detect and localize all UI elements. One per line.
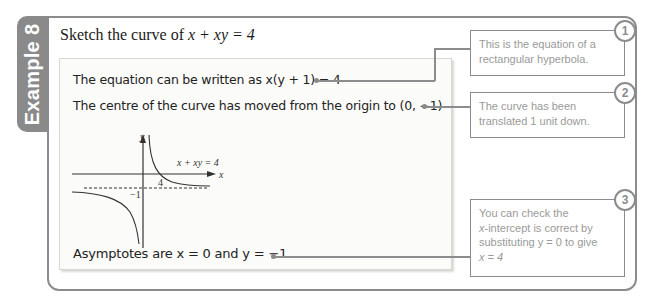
connector-line-1b: [434, 48, 436, 81]
callout-badge-1: 1: [614, 20, 636, 42]
callout-badge-2: 2: [614, 82, 636, 104]
hyperbola-graph: y x x + xy = 4 4 −1: [60, 128, 240, 250]
question-equation: x + xy = 4: [188, 26, 255, 43]
svg-text:−1: −1: [130, 189, 141, 200]
connector-line-2: [425, 106, 471, 108]
working-step-3: Asymptotes are x = 0 and y = −1: [73, 246, 287, 261]
callout-2: The curve has been translated 1 unit dow…: [470, 92, 625, 138]
svg-text:4: 4: [158, 177, 163, 188]
example-tab-label: Example 8: [17, 16, 49, 132]
connector-line-1c: [434, 48, 471, 50]
working-step-2: The centre of the curve has moved from t…: [73, 98, 442, 113]
callout-1: This is the equation of a rectangular hy…: [470, 30, 625, 76]
svg-text:y: y: [139, 131, 145, 142]
callout-3: You can check the x-intercept is correct…: [470, 199, 625, 277]
working-step-1: The equation can be written as x(y + 1) …: [73, 72, 340, 87]
svg-text:x: x: [218, 169, 224, 180]
connector-line-3: [274, 256, 471, 258]
connector-line-1a: [317, 80, 435, 82]
callout-badge-3: 3: [614, 189, 636, 211]
question-title: Sketch the curve of x + xy = 4: [60, 26, 255, 44]
svg-text:x + xy = 4: x + xy = 4: [176, 157, 219, 168]
